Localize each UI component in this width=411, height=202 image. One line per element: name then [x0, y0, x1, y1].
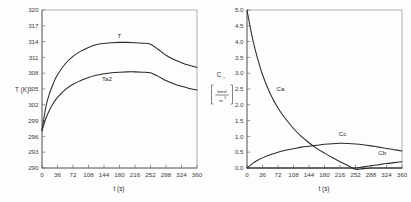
- x-tick-label: 288: [161, 171, 172, 178]
- x-tick-label: 72: [70, 171, 77, 178]
- y-tick-label: 299: [28, 117, 39, 124]
- x-tick-label: 36: [259, 171, 266, 178]
- figure-root: 290293296299302305308311314317320 036721…: [0, 0, 411, 202]
- concentration-x-axis-label: t (s): [318, 185, 329, 193]
- curve-label-T: T: [118, 32, 122, 39]
- curve-Ca: [247, 10, 402, 169]
- concentration-x-axis-ticks: 03672108144180216252288324360: [245, 165, 407, 178]
- y-tick-label: 2.0: [235, 101, 244, 108]
- y-tick-label: 1.5: [235, 117, 244, 124]
- x-tick-label: 252: [145, 171, 156, 178]
- concentration-y-axis-label: C i kmol m 3: [212, 71, 233, 104]
- x-tick-label: 324: [176, 171, 187, 178]
- curve-label-Ca: Ca: [277, 85, 285, 92]
- x-tick-label: 288: [366, 171, 377, 178]
- temperature-chart: 290293296299302305308311314317320 036721…: [0, 0, 206, 202]
- temperature-y-axis-label: T (K): [15, 86, 29, 94]
- curve-Ta2: [42, 72, 197, 131]
- concentration-curve-labels: CaCcCb: [277, 85, 387, 156]
- concentration-y-axis-symbol: C: [217, 71, 222, 78]
- y-tick-label: 314: [28, 38, 39, 45]
- x-tick-label: 0: [245, 171, 249, 178]
- curve-label-Ta2: Ta2: [102, 75, 113, 82]
- x-tick-label: 180: [319, 171, 330, 178]
- y-tick-label: 2.5: [235, 85, 244, 92]
- x-tick-label: 324: [381, 171, 392, 178]
- x-tick-label: 0: [40, 171, 44, 178]
- temperature-curves: [42, 42, 197, 130]
- concentration-chart: 0.00.51.01.52.02.53.03.54.04.55.0 036721…: [205, 0, 411, 202]
- curve-label-Cb: Cb: [378, 149, 386, 156]
- y-tick-label: 3.5: [235, 54, 244, 61]
- y-tick-label: 0.0: [235, 164, 244, 171]
- y-tick-label: 293: [28, 148, 39, 155]
- y-tick-label: 5.0: [235, 6, 244, 13]
- x-tick-label: 144: [304, 171, 315, 178]
- temperature-x-axis-label: t (s): [113, 185, 124, 193]
- x-tick-label: 108: [83, 171, 94, 178]
- x-tick-label: 36: [54, 171, 61, 178]
- y-tick-label: 4.0: [235, 38, 244, 45]
- y-tick-label: 317: [28, 22, 39, 29]
- concentration-units-numerator: kmol: [217, 89, 226, 94]
- y-tick-label: 311: [29, 54, 39, 61]
- y-tick-label: 3.0: [235, 69, 244, 76]
- y-tick-label: 302: [28, 101, 39, 108]
- y-tick-label: 320: [28, 6, 39, 13]
- x-tick-label: 216: [335, 171, 346, 178]
- concentration-y-axis-ticks: 0.00.51.01.52.02.53.03.54.04.55.0: [235, 6, 250, 171]
- y-tick-label: 4.5: [235, 22, 244, 29]
- concentration-curves: [247, 10, 402, 169]
- x-tick-label: 360: [397, 171, 408, 178]
- y-tick-label: 290: [28, 164, 39, 171]
- y-tick-label: 0.5: [235, 148, 244, 155]
- x-tick-label: 216: [130, 171, 141, 178]
- x-tick-label: 108: [288, 171, 299, 178]
- y-tick-label: 308: [28, 69, 39, 76]
- x-tick-label: 180: [114, 171, 125, 178]
- y-tick-label: 1.0: [235, 133, 244, 140]
- concentration-units-denominator-exponent: 3: [224, 96, 226, 100]
- y-tick-label: 305: [28, 85, 39, 92]
- concentration-units-denominator: m: [219, 98, 223, 103]
- temperature-y-axis-ticks: 290293296299302305308311314317320: [28, 6, 45, 171]
- x-tick-label: 360: [192, 171, 203, 178]
- temperature-curve-labels: TTa2: [102, 32, 122, 81]
- temperature-x-axis-ticks: 03672108144180216252288324360: [40, 165, 202, 178]
- x-tick-label: 252: [350, 171, 361, 178]
- y-tick-label: 296: [28, 133, 39, 140]
- x-tick-label: 72: [275, 171, 282, 178]
- concentration-y-axis-subscript: i: [224, 75, 225, 80]
- curve-label-Cc: Cc: [339, 130, 347, 137]
- curve-T: [42, 42, 197, 130]
- x-tick-label: 144: [99, 171, 110, 178]
